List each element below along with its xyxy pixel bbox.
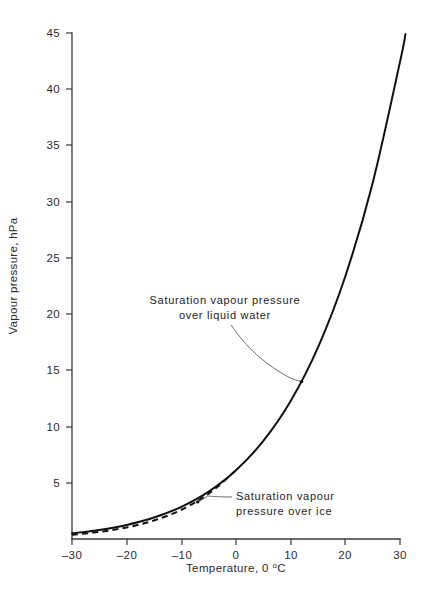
leader-dot-ice — [196, 500, 199, 503]
x-tick-marks — [72, 539, 400, 545]
annotation-water-line-2: over liquid water — [150, 308, 301, 323]
x-tick-label-minus30: –30 — [62, 549, 82, 561]
x-tick-label-0: 0 — [233, 549, 240, 561]
x-tick-label-20: 20 — [338, 549, 352, 561]
x-tick-label-10: 10 — [284, 549, 298, 561]
annotation-saturation-over-liquid-water: Saturation vapour pressure over liquid w… — [150, 293, 301, 323]
x-axis-title-prefix: Temperature, 0 — [186, 562, 273, 574]
y-tick-label-45: 45 — [34, 27, 60, 39]
curve-saturation-over-liquid-water — [72, 34, 405, 533]
y-tick-label-40: 40 — [34, 83, 60, 95]
x-tick-label-minus20: –20 — [117, 549, 137, 561]
y-tick-label-25: 25 — [34, 252, 60, 264]
annotation-ice-line-1: Saturation vapour — [236, 489, 335, 504]
y-tick-marks — [66, 33, 72, 483]
x-axis-title-suffix: C — [277, 562, 286, 574]
x-axis-title: Temperature, 0 oC — [186, 561, 286, 574]
annotation-ice-line-2: pressure over ice — [236, 504, 335, 519]
leader-dot-water — [300, 380, 303, 383]
x-tick-label-30: 30 — [393, 549, 407, 561]
x-tick-label-minus10: –10 — [172, 549, 192, 561]
annotation-water-line-1: Saturation vapour pressure — [150, 293, 301, 308]
y-tick-label-15: 15 — [34, 364, 60, 376]
y-tick-label-20: 20 — [34, 308, 60, 320]
y-tick-label-10: 10 — [34, 421, 60, 433]
y-tick-label-30: 30 — [34, 196, 60, 208]
y-tick-label-35: 35 — [34, 139, 60, 151]
y-axis-title: Vapour pressure, hPa — [7, 217, 19, 334]
annotation-saturation-over-ice: Saturation vapour pressure over ice — [236, 489, 335, 519]
vapour-pressure-figure: 45 40 35 30 25 20 15 10 5 –30 –20 –10 0 … — [0, 0, 436, 598]
curve-saturation-over-ice — [72, 470, 236, 534]
y-tick-label-5: 5 — [34, 477, 60, 489]
leader-line-water — [231, 325, 302, 382]
